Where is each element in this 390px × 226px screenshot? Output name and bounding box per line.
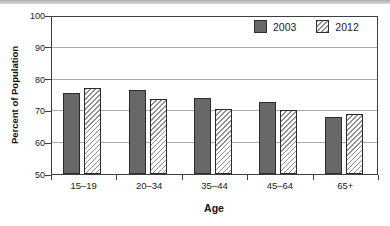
bar-2003-35–44 bbox=[194, 98, 211, 174]
legend-swatch-2012 bbox=[316, 20, 329, 33]
y-tick-mark-90 bbox=[45, 47, 51, 48]
bar-2003-15–19 bbox=[63, 93, 80, 174]
bar-2012-20–34 bbox=[150, 99, 167, 174]
x-axis-title: Age bbox=[204, 202, 224, 214]
gridline-90 bbox=[52, 47, 377, 48]
bar-2003-65+ bbox=[325, 117, 342, 174]
y-tick-label-60: 60 bbox=[8, 137, 45, 149]
x-tick-mark-3 bbox=[247, 175, 248, 180]
y-tick-label-90: 90 bbox=[8, 42, 45, 54]
y-tick-mark-70 bbox=[45, 111, 51, 112]
plot-area: 20032012 bbox=[51, 16, 378, 175]
x-category-label-0: 15–19 bbox=[56, 180, 112, 191]
legend-label-2012: 2012 bbox=[335, 21, 358, 33]
y-axis-title: Percent of Population bbox=[9, 46, 20, 144]
y-tick-mark-60 bbox=[45, 143, 51, 144]
bar-2012-65+ bbox=[346, 114, 363, 174]
y-tick-mark-100 bbox=[45, 16, 51, 17]
chart-figure: Percent of Population 20032012 Age 50607… bbox=[0, 0, 390, 226]
x-tick-mark-5 bbox=[378, 175, 379, 180]
x-tick-mark-0 bbox=[51, 175, 52, 180]
x-category-label-1: 20–34 bbox=[121, 180, 177, 191]
y-tick-label-50: 50 bbox=[8, 169, 45, 181]
x-category-label-3: 45–64 bbox=[252, 180, 308, 191]
y-tick-label-100: 100 bbox=[8, 10, 45, 22]
legend-entry-2003: 2003 bbox=[254, 20, 296, 33]
y-tick-mark-80 bbox=[45, 79, 51, 80]
x-tick-mark-1 bbox=[116, 175, 117, 180]
bar-2003-20–34 bbox=[129, 90, 146, 174]
bar-2012-45–64 bbox=[280, 110, 297, 174]
x-category-label-2: 35–44 bbox=[187, 180, 243, 191]
gridline-80 bbox=[52, 79, 377, 80]
y-tick-label-70: 70 bbox=[8, 105, 45, 117]
y-tick-label-80: 80 bbox=[8, 74, 45, 86]
bar-2003-45–64 bbox=[259, 102, 276, 174]
x-tick-mark-4 bbox=[313, 175, 314, 180]
page-edge-band bbox=[0, 0, 390, 4]
bar-2012-35–44 bbox=[215, 109, 232, 174]
x-category-label-4: 65+ bbox=[317, 180, 373, 191]
legend-swatch-2003 bbox=[254, 20, 267, 33]
x-tick-mark-2 bbox=[182, 175, 183, 180]
legend-entry-2012: 2012 bbox=[316, 20, 358, 33]
bar-2012-15–19 bbox=[84, 88, 101, 174]
legend-label-2003: 2003 bbox=[273, 21, 296, 33]
legend: 20032012 bbox=[254, 20, 359, 33]
